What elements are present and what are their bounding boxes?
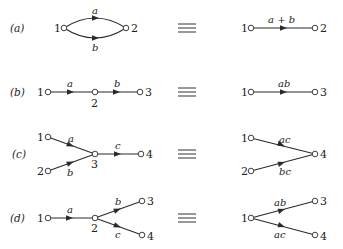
node-1 xyxy=(61,25,67,31)
edge-label-ab: ab xyxy=(274,197,286,208)
arrow-icon xyxy=(280,25,287,30)
node-label-4: 4 xyxy=(147,230,154,243)
edge-label-a: a xyxy=(68,133,74,144)
node-3 xyxy=(139,198,145,204)
edge-label-b: b xyxy=(115,196,121,207)
node-label-1: 1 xyxy=(241,212,248,225)
arrow-icon xyxy=(113,209,121,214)
row-b-left-graph: 1 2 3 a b xyxy=(37,78,152,110)
node-2 xyxy=(312,25,318,31)
edge-label-b: b xyxy=(67,167,73,178)
node-label-1: 1 xyxy=(241,132,248,145)
node-label-2: 2 xyxy=(91,97,98,110)
node-1 xyxy=(45,134,51,140)
node-label-1: 1 xyxy=(241,86,248,99)
node-1 xyxy=(45,89,51,95)
node-label-2: 2 xyxy=(91,222,98,235)
row-label-a: (a) xyxy=(10,22,24,34)
node-4 xyxy=(312,232,318,238)
edge-label-ac: ac xyxy=(274,229,286,240)
node-1 xyxy=(248,25,254,31)
node-label-1: 1 xyxy=(241,22,248,35)
arrow-icon xyxy=(280,89,287,94)
node-label-1: 1 xyxy=(37,212,44,225)
signal-flow-diagram: (a) 1 2 a b 1 2 a + b xyxy=(0,0,343,249)
row-d-right-graph: 1 3 4 ab ac xyxy=(241,195,327,243)
node-2 xyxy=(92,215,98,221)
node-label-2: 2 xyxy=(131,22,138,35)
equiv-symbol-d xyxy=(178,214,196,222)
edge-label-b: b xyxy=(92,42,98,53)
edge-label-b: b xyxy=(114,78,120,89)
node-3 xyxy=(312,89,318,95)
edge-label-ac: ac xyxy=(279,134,291,145)
node-label-1: 1 xyxy=(37,131,44,144)
node-label-3: 3 xyxy=(91,158,98,171)
row-d: (d) 1 2 3 4 a b c xyxy=(10,195,327,243)
node-1 xyxy=(248,89,254,95)
edge-label-a: a xyxy=(92,5,98,16)
arrow-icon xyxy=(66,215,73,220)
row-label-b: (b) xyxy=(10,86,25,98)
row-d-left-graph: 1 2 3 4 a b c xyxy=(37,195,154,243)
node-label-2: 2 xyxy=(37,165,44,178)
row-c-right-graph: 1 2 4 ac bc xyxy=(241,132,327,178)
node-1 xyxy=(248,215,254,221)
node-label-3: 3 xyxy=(320,195,327,208)
node-label-2: 2 xyxy=(241,165,248,178)
edge-label-c: c xyxy=(115,140,121,151)
row-c-left-graph: 1 2 3 4 a b c xyxy=(37,131,153,178)
node-3 xyxy=(312,198,318,204)
arrow-icon xyxy=(92,35,99,40)
node-label-4: 4 xyxy=(320,230,327,243)
row-b-right-graph: 1 3 ab xyxy=(241,78,327,99)
equiv-symbol-b xyxy=(178,88,196,96)
node-label-3: 3 xyxy=(147,195,154,208)
equiv-symbol-a xyxy=(178,24,196,32)
row-a: (a) 1 2 a b 1 2 a + b xyxy=(10,5,327,53)
row-a-right-graph: 1 2 a + b xyxy=(241,14,327,35)
node-2 xyxy=(248,168,254,174)
node-1 xyxy=(45,215,51,221)
edge-label-c: c xyxy=(115,229,121,240)
arrow-icon xyxy=(113,222,121,227)
row-label-c: (c) xyxy=(12,148,26,160)
node-label-4: 4 xyxy=(146,148,153,161)
node-3 xyxy=(137,89,143,95)
arrow-icon xyxy=(92,15,99,20)
node-3 xyxy=(92,151,98,157)
node-2 xyxy=(123,25,129,31)
edge-label-a-plus-b: a + b xyxy=(268,14,295,25)
node-label-3: 3 xyxy=(320,86,327,99)
node-label-1: 1 xyxy=(37,86,44,99)
arrow-icon xyxy=(67,89,74,94)
node-2 xyxy=(45,168,51,174)
node-4 xyxy=(138,151,144,157)
node-label-2: 2 xyxy=(320,22,327,35)
node-4 xyxy=(139,232,145,238)
edge-label-ab: ab xyxy=(278,78,290,89)
node-1 xyxy=(248,135,254,141)
node-label-4: 4 xyxy=(320,148,327,161)
edge-label-a: a xyxy=(67,78,73,89)
row-label-d: (d) xyxy=(10,212,25,224)
edge-label-a: a xyxy=(67,204,73,215)
node-4 xyxy=(312,151,318,157)
node-2 xyxy=(92,89,98,95)
edge-label-bc: bc xyxy=(279,166,291,177)
arrow-icon xyxy=(278,209,285,214)
row-c: (c) 1 2 3 4 a b c xyxy=(12,131,327,178)
node-label-3: 3 xyxy=(145,86,152,99)
arrow-icon xyxy=(113,89,120,94)
row-b: (b) 1 2 3 a b 1 3 ab xyxy=(10,78,327,110)
node-label-1: 1 xyxy=(54,22,61,35)
arrow-icon xyxy=(114,151,121,156)
arrow-icon xyxy=(278,222,285,227)
equiv-symbol-c xyxy=(178,150,196,158)
row-a-left-graph: 1 2 a b xyxy=(54,5,138,53)
